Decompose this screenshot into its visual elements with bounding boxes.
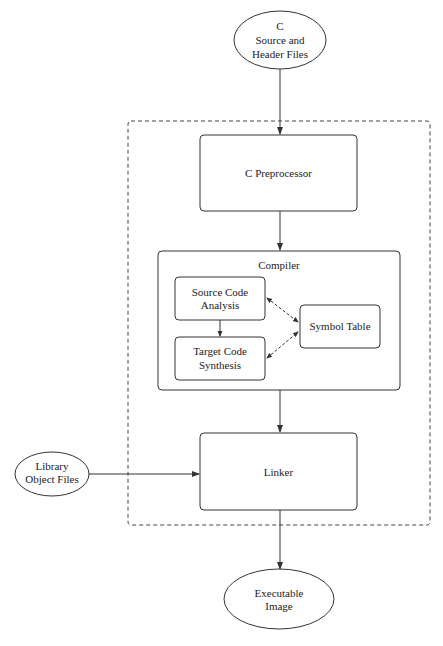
symbol-table-label: Symbol Table — [309, 320, 370, 332]
target-synthesis-line-2: Synthesis — [199, 359, 241, 371]
source-files-line-2: Source and — [255, 34, 305, 46]
source-analysis-line-2: Analysis — [201, 299, 240, 311]
linker-node: Linker — [200, 433, 357, 510]
target-synthesis-line-1: Target Code — [193, 345, 247, 357]
library-files-line-1: Library — [36, 460, 69, 472]
preprocessor-label: C Preprocessor — [245, 167, 312, 179]
compilation-pipeline-diagram: C Source and Header Files C Preprocessor… — [0, 0, 443, 646]
preprocessor-node: C Preprocessor — [200, 135, 357, 211]
compiler-label: Compiler — [258, 259, 300, 271]
symbol-table-node: Symbol Table — [300, 305, 380, 348]
source-files-line-1: C — [276, 20, 283, 32]
executable-line-1: Executable — [255, 587, 304, 599]
source-files-node: C Source and Header Files — [234, 11, 326, 69]
source-analysis-node: Source Code Analysis — [175, 277, 265, 320]
source-files-line-3: Header Files — [252, 48, 308, 60]
executable-node: Executable Image — [224, 569, 334, 629]
library-files-node: Library Object Files — [15, 452, 89, 496]
library-files-line-2: Object Files — [25, 473, 78, 485]
linker-label: Linker — [264, 466, 294, 478]
target-synthesis-node: Target Code Synthesis — [175, 337, 265, 380]
executable-line-2: Image — [265, 600, 293, 612]
source-analysis-line-1: Source Code — [192, 286, 249, 298]
